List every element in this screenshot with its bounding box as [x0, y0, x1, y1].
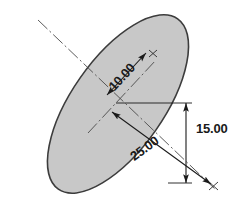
major-axis-endpoint-marker	[209, 182, 218, 190]
dimension-label-15: 15.00	[196, 121, 228, 136]
technical-drawing-canvas: 10.00 25.00 15.00	[0, 0, 245, 209]
drawing-svg: 10.00 25.00 15.00	[0, 0, 245, 209]
